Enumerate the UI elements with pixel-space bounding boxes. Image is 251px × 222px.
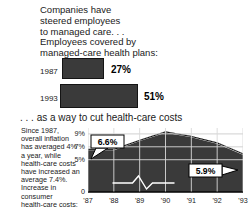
infographic-root: Companies have steered employees to mana…	[0, 0, 251, 222]
y-axis-tick-label: 5%	[69, 156, 85, 163]
y-axis-tick-label: 7%	[69, 143, 85, 150]
svg-text:6.6%: 6.6%	[98, 137, 118, 147]
area-chart-svg: 6.6%5.9%	[88, 126, 243, 198]
top-headline: Companies have steered employees to mana…	[40, 5, 240, 59]
top-headline-line-2: steered employees	[40, 16, 240, 27]
bar-rect-1993	[60, 84, 138, 108]
bottom-headline: . . . as a way to cut health-care costs	[20, 112, 182, 124]
bar-label-1987: 1987	[40, 67, 58, 77]
x-axis-tick-label: '90	[156, 197, 176, 204]
x-axis-tick-label: '89	[130, 197, 150, 204]
bar-row: 1993 51%	[0, 84, 251, 106]
area-chart: 6.6%5.9%	[88, 126, 243, 198]
bar-row: 1987 27%	[0, 58, 251, 80]
x-axis-tick-label: '87	[78, 197, 98, 204]
x-axis-tick-label: '88	[104, 197, 124, 204]
svg-text:5.9%: 5.9%	[196, 166, 216, 176]
bar-rect-1987	[62, 58, 104, 79]
bar-value-1993: 51%	[144, 92, 164, 102]
x-axis-tick-label: '93	[233, 197, 251, 204]
bar-label-1993: 1993	[40, 94, 58, 104]
y-axis-tick-label: 9%	[69, 130, 85, 137]
y-axis-tick-label: 0	[69, 188, 85, 195]
x-axis-tick-label: '91	[181, 197, 201, 204]
bar-value-1987: 27%	[111, 65, 131, 75]
x-axis-tick-label: '92	[207, 197, 227, 204]
